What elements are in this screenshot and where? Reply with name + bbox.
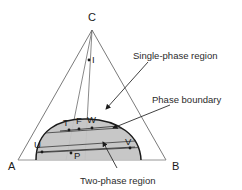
point-marker-F (78, 128, 81, 131)
vertex-label-A: A (8, 160, 16, 172)
point-marker-U (41, 151, 44, 154)
point-label-P: P (74, 150, 80, 161)
point-marker-I (88, 59, 91, 62)
vertex-label-C: C (88, 11, 96, 23)
point-label-U: U (34, 139, 41, 150)
annotation-single-phase-region: Single-phase region (133, 50, 218, 61)
point-label-F: F (76, 115, 82, 126)
point-marker-T (68, 129, 71, 132)
point-label-V: V (125, 136, 132, 147)
point-label-T: T (63, 117, 69, 128)
point-marker-V (129, 147, 132, 150)
point-label-I: I (92, 54, 95, 65)
diagram-canvas: C A B I T F W U V P Single-phase region … (0, 0, 242, 190)
leader-single-phase (106, 62, 148, 109)
annotation-two-phase-region: Two-phase region (80, 175, 156, 186)
point-label-W: W (87, 114, 96, 125)
ternary-phase-diagram: C A B I T F W U V P Single-phase region … (0, 0, 242, 190)
point-marker-W (91, 127, 94, 130)
annotation-phase-boundary: Phase boundary (152, 94, 221, 105)
point-marker-P (70, 152, 73, 155)
leader-phase-boundary (113, 105, 170, 128)
vertex-label-B: B (172, 160, 179, 172)
